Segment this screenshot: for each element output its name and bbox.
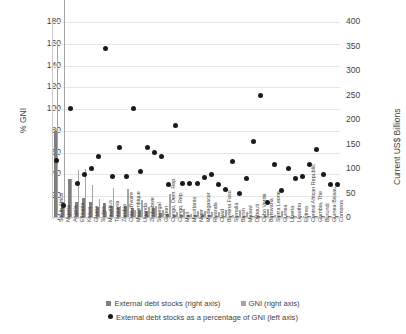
scatter-series-layer <box>53 22 340 217</box>
x-tick-label: Central African Republic <box>310 164 316 222</box>
scatter-point <box>216 182 221 187</box>
legend-swatch-square-icon <box>106 301 111 306</box>
scatter-point <box>117 145 122 150</box>
x-tick-label: Botswana <box>268 198 274 222</box>
y-tick-right-200: 200 <box>346 114 376 124</box>
x-axis-category-labels: South AfricaNigeriaAngolaEthiopiaKenyaGh… <box>52 220 340 294</box>
x-tick-label: Lesotho <box>296 203 302 222</box>
x-tick-label: Madagascar <box>205 192 211 222</box>
scatter-point <box>75 181 80 186</box>
x-tick-label: Cabo Verde <box>261 194 267 222</box>
scatter-point <box>173 123 178 128</box>
scatter-point <box>89 166 94 171</box>
plot-area <box>52 22 340 218</box>
scatter-point <box>314 147 319 152</box>
legend-label-gni: GNI (right axis) <box>249 299 300 308</box>
x-tick-label: Malawi <box>247 205 253 222</box>
x-tick-label: Uganda <box>142 203 148 222</box>
scatter-point <box>258 93 263 98</box>
x-tick-label: Angola <box>72 205 78 222</box>
legend-label-debt-percentage-gni: External debt stocks as a percentage of … <box>116 312 298 321</box>
scatter-point <box>96 154 101 159</box>
y-tick-right-300: 300 <box>346 65 376 75</box>
x-tick-label: Guinea <box>282 205 288 222</box>
scatter-point <box>54 158 59 163</box>
legend-row-bottom: External debt stocks as a percentage of … <box>0 310 406 324</box>
x-tick-label: Burkina Faso <box>226 190 232 222</box>
x-tick-label: Mauritania <box>191 197 197 222</box>
scatter-point <box>300 174 305 179</box>
x-tick-label: Guinea-Bissau <box>331 187 337 222</box>
x-tick-label: Cote d'Ivoire <box>128 192 134 222</box>
x-tick-label: Zimbabwe <box>149 197 155 222</box>
y-tick-right-0: 0 <box>346 212 376 222</box>
x-tick-label: Ghana <box>93 206 99 222</box>
x-tick-label: Mauritius <box>107 200 113 222</box>
legend-swatch-square-gni-icon <box>241 301 246 306</box>
y-tick-right-350: 350 <box>346 41 376 51</box>
scatter-point <box>244 176 249 181</box>
x-tick-label: Congo, Rep. <box>177 192 183 222</box>
legend-swatch-dot-icon <box>108 314 113 319</box>
x-tick-label: Congo, Dem. Rep. <box>170 177 176 222</box>
chart-legend: External debt stocks (right axis) GNI (r… <box>0 296 406 323</box>
scatter-point <box>251 139 256 144</box>
x-tick-label: Gambia, The <box>317 191 323 222</box>
x-tick-label: Somalia <box>233 203 239 222</box>
x-tick-label: Kenya <box>86 207 92 222</box>
x-tick-label: Senegal <box>156 202 162 222</box>
chart-container: % GNI Current US$ Billions 0204060801001… <box>0 0 406 334</box>
scatter-point <box>293 176 298 181</box>
legend-label-external-debt-stocks: External debt stocks (right axis) <box>114 299 220 308</box>
scatter-point <box>230 159 235 164</box>
x-tick-label: Sudan <box>100 206 106 222</box>
scatter-point <box>202 175 207 180</box>
scatter-point <box>237 191 242 196</box>
scatter-point <box>131 106 136 111</box>
scatter-point <box>286 166 291 171</box>
scatter-point <box>68 106 73 111</box>
x-tick-label: South Africa <box>58 193 64 222</box>
x-tick-label: Sierra Leone <box>275 191 281 222</box>
scatter-point <box>145 145 150 150</box>
scatter-point <box>187 181 192 186</box>
y-tick-right-250: 250 <box>346 90 376 100</box>
y-axis-right-title: Current US$ Billions <box>392 108 402 185</box>
scatter-point <box>180 181 185 186</box>
legend-row-top: External debt stocks (right axis) GNI (r… <box>0 296 406 310</box>
scatter-point <box>321 172 326 177</box>
scatter-point <box>209 172 214 177</box>
x-tick-label: Niger <box>198 209 204 222</box>
scatter-point <box>159 154 164 159</box>
x-tick-label: Comoros <box>338 200 344 222</box>
scatter-point <box>195 181 200 186</box>
scatter-point <box>152 150 157 155</box>
scatter-point <box>103 46 108 51</box>
x-tick-label: Nigeria <box>65 205 71 222</box>
y-axis-left-title: % GNI <box>18 108 28 133</box>
x-tick-label: Rwanda <box>212 202 218 222</box>
y-tick-right-100: 100 <box>346 163 376 173</box>
x-tick-label: Mali <box>184 212 190 222</box>
x-tick-label: Zambia <box>121 204 127 222</box>
legend-item-debt-percentage-gni: External debt stocks as a percentage of … <box>108 310 298 324</box>
scatter-point <box>124 174 129 179</box>
y-tick-right-400: 400 <box>346 16 376 26</box>
x-tick-label: Gabon <box>163 206 169 222</box>
scatter-point <box>110 174 115 179</box>
scatter-point <box>138 169 143 174</box>
x-tick-label: Eritrea <box>303 206 309 222</box>
legend-item-external-debt-stocks: External debt stocks (right axis) <box>106 296 220 310</box>
legend-item-gni: GNI (right axis) <box>241 296 300 310</box>
y-tick-right-50: 50 <box>346 188 376 198</box>
x-tick-label: Liberia <box>289 206 295 222</box>
x-tick-label: Burundi <box>324 203 330 222</box>
x-tick-label: Chad <box>219 209 225 222</box>
scatter-point <box>272 162 277 167</box>
x-tick-label: Tanzania <box>114 200 120 222</box>
x-tick-label: Ethiopia <box>79 203 85 222</box>
x-tick-label: Mozambique <box>135 191 141 222</box>
x-tick-label: Djibouti <box>254 204 260 222</box>
y-tick-right-150: 150 <box>346 139 376 149</box>
x-tick-label: Benin <box>240 208 246 222</box>
